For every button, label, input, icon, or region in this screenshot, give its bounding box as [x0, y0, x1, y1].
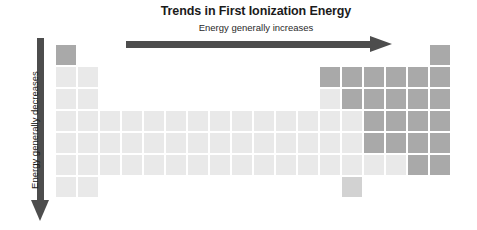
- element-cell: [56, 133, 76, 153]
- element-cell: [408, 155, 428, 175]
- element-cell: [430, 89, 450, 109]
- element-cell: [430, 67, 450, 87]
- element-cell: [56, 89, 76, 109]
- element-cell: [408, 89, 428, 109]
- element-cell: [364, 155, 384, 175]
- element-cell: [408, 111, 428, 131]
- element-cell: [100, 155, 120, 175]
- element-cell: [364, 133, 384, 153]
- element-cell: [342, 67, 362, 87]
- element-cell: [276, 155, 296, 175]
- element-cell: [166, 133, 186, 153]
- element-cell: [188, 155, 208, 175]
- element-cell: [408, 67, 428, 87]
- element-cell: [210, 111, 230, 131]
- element-cell: [386, 133, 406, 153]
- element-cell: [408, 133, 428, 153]
- element-cell: [320, 89, 340, 109]
- element-cell: [364, 67, 384, 87]
- element-cell: [364, 111, 384, 131]
- element-cell: [210, 133, 230, 153]
- element-cell: [78, 89, 98, 109]
- element-cell: [298, 155, 318, 175]
- element-cell: [78, 67, 98, 87]
- element-cell: [254, 111, 274, 131]
- element-cell: [254, 155, 274, 175]
- element-cell: [276, 111, 296, 131]
- element-cell: [100, 133, 120, 153]
- vertical-trend-label: Energy generally decreases: [28, 40, 42, 220]
- element-cell: [320, 111, 340, 131]
- element-cell: [78, 133, 98, 153]
- element-cell: [56, 45, 76, 65]
- element-cell: [386, 111, 406, 131]
- element-cell: [254, 133, 274, 153]
- element-cell: [276, 133, 296, 153]
- element-cell: [298, 111, 318, 131]
- element-cell: [342, 155, 362, 175]
- element-cell: [430, 111, 450, 131]
- page-title: Trends in First Ionization Energy: [60, 4, 452, 18]
- element-cell: [232, 133, 252, 153]
- element-cell: [144, 111, 164, 131]
- element-cell: [56, 155, 76, 175]
- element-cell: [320, 155, 340, 175]
- ionization-energy-trends-figure: Trends in First Ionization Energy Energy…: [0, 0, 477, 230]
- element-cell: [342, 133, 362, 153]
- element-cell: [298, 133, 318, 153]
- element-cell: [342, 111, 362, 131]
- element-cell: [232, 111, 252, 131]
- element-cell: [78, 177, 98, 197]
- element-cell: [188, 133, 208, 153]
- element-cell: [386, 89, 406, 109]
- element-cell: [56, 67, 76, 87]
- periodic-table-grid: [56, 45, 452, 200]
- element-cell: [342, 177, 362, 197]
- element-cell: [122, 155, 142, 175]
- element-cell: [342, 89, 362, 109]
- element-cell: [78, 111, 98, 131]
- element-cell: [430, 155, 450, 175]
- element-cell: [144, 155, 164, 175]
- element-cell: [78, 155, 98, 175]
- element-cell: [166, 155, 186, 175]
- element-cell: [386, 155, 406, 175]
- element-cell: [144, 133, 164, 153]
- element-cell: [188, 111, 208, 131]
- element-cell: [56, 177, 76, 197]
- element-cell: [430, 45, 450, 65]
- element-cell: [166, 111, 186, 131]
- element-cell: [56, 111, 76, 131]
- element-cell: [320, 67, 340, 87]
- element-cell: [232, 155, 252, 175]
- element-cell: [122, 111, 142, 131]
- element-cell: [430, 133, 450, 153]
- horizontal-trend-label: Energy generally increases: [60, 22, 452, 33]
- element-cell: [100, 111, 120, 131]
- element-cell: [320, 133, 340, 153]
- element-cell: [364, 89, 384, 109]
- element-cell: [210, 155, 230, 175]
- element-cell: [386, 67, 406, 87]
- element-cell: [122, 133, 142, 153]
